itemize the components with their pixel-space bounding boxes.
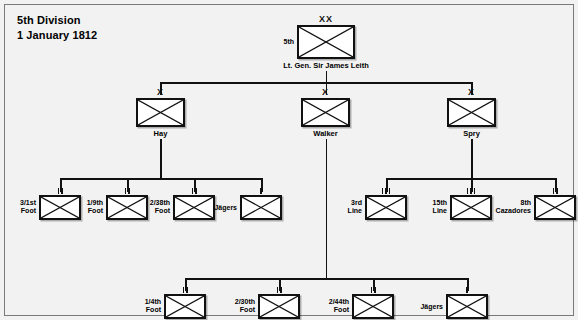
echelon-tick xyxy=(58,188,60,194)
infantry-cross-icon xyxy=(41,197,79,218)
connector-hay-to-2-38th xyxy=(194,178,196,192)
echelon-tick xyxy=(183,287,185,293)
unit-label-line-1: 8th xyxy=(496,199,531,208)
connector-hay-bus xyxy=(60,178,261,180)
unit-designation-label: 5th xyxy=(284,37,295,46)
connector-walker-to-jagers xyxy=(467,278,469,291)
unit-walker-jagers[interactable]: Jägers xyxy=(446,294,488,319)
unit-symbol-box xyxy=(106,195,148,220)
unit-symbol-box xyxy=(352,294,394,319)
unit-label-line-1: 2/44th xyxy=(329,298,349,307)
echelon-tick xyxy=(192,188,194,194)
infantry-cross-icon xyxy=(242,197,280,218)
connector-to-hay xyxy=(160,82,162,95)
unit-label-line-1: Jägers xyxy=(214,203,237,212)
unit-2-38th-foot[interactable]: 2/38th Foot xyxy=(173,195,215,220)
connector-to-spry xyxy=(471,82,473,95)
unit-symbol-box xyxy=(534,195,576,220)
unit-3-1st-foot[interactable]: 3/1st Foot xyxy=(39,195,81,220)
infantry-cross-icon xyxy=(175,197,213,218)
unit-label: 1/9th Foot xyxy=(87,199,103,217)
connector-hay-to-1-9th xyxy=(127,178,129,192)
unit-label-line-1: Jägers xyxy=(420,302,443,311)
infantry-cross-icon xyxy=(108,197,146,218)
connector-spry-to-8th-cazadores xyxy=(555,178,557,192)
connector-to-walker xyxy=(326,82,328,95)
brigade-name-label: Hay xyxy=(154,129,168,138)
connector-walker-to-1-4th xyxy=(185,278,187,291)
unit-label-line-2: Foot xyxy=(235,307,255,316)
division-commander-label: Lt. Gen. Sir James Leith xyxy=(283,61,368,70)
brigade-name-label: Walker xyxy=(313,129,337,138)
unit-label-line-2: Line xyxy=(433,208,447,217)
brigade-name-label: Spry xyxy=(463,129,480,138)
unit-symbol-box xyxy=(164,294,206,319)
unit-2-30th-foot[interactable]: 2/30th Foot xyxy=(258,294,300,319)
infantry-cross-icon xyxy=(536,197,574,218)
connector-walker-down xyxy=(326,139,328,279)
unit-1-4th-foot[interactable]: 1/4th Foot xyxy=(164,294,206,319)
unit-label-line-2: Foot xyxy=(150,208,170,217)
unit-label-line-1: 1/4th xyxy=(145,298,161,307)
unit-label: 3/1st Foot xyxy=(20,199,36,217)
unit-8th-cazadores[interactable]: 8th Cazadores xyxy=(534,195,576,220)
connector-brigade-bus xyxy=(160,82,472,84)
unit-label-line-1: 2/38th xyxy=(150,199,170,208)
unit-label-line-1: 3rd xyxy=(348,199,362,208)
chart-frame: 5th Division 1 January 1812 XX 5th Lt. G… xyxy=(4,4,574,316)
infantry-cross-icon xyxy=(166,296,204,317)
unit-label: 15th Line xyxy=(433,199,447,217)
unit-symbol-box xyxy=(365,195,407,220)
unit-label-line-2: Foot xyxy=(20,208,36,217)
unit-symbol-box xyxy=(450,195,492,220)
unit-label: 2/44th Foot xyxy=(329,298,349,316)
title-line-1: 5th Division xyxy=(17,13,97,28)
chart-title: 5th Division 1 January 1812 xyxy=(17,13,97,42)
echelon-tick xyxy=(474,188,476,194)
echelon-tick xyxy=(382,188,384,194)
infantry-cross-icon xyxy=(452,197,490,218)
infantry-cross-icon xyxy=(367,197,405,218)
title-line-2: 1 January 1812 xyxy=(17,28,97,43)
unit-label: Jägers xyxy=(214,203,237,212)
infantry-cross-icon xyxy=(260,296,298,317)
echelon-tick xyxy=(553,188,555,194)
unit-division-5th[interactable]: XX 5th Lt. Gen. Sir James Leith xyxy=(297,25,355,59)
connector-spry-down xyxy=(471,139,473,179)
unit-1-9th-foot[interactable]: 1/9th Foot xyxy=(106,195,148,220)
unit-symbol-box xyxy=(258,294,300,319)
unit-symbol-box xyxy=(136,98,185,127)
unit-15th-line[interactable]: 15th Line xyxy=(450,195,492,220)
unit-brigade-hay[interactable]: X Hay xyxy=(136,98,185,127)
infantry-cross-icon xyxy=(449,100,494,125)
echelon-tick xyxy=(277,287,279,293)
connector-walker-to-2-44th xyxy=(373,278,375,291)
unit-symbol-box xyxy=(447,98,496,127)
unit-symbol-box xyxy=(39,195,81,220)
unit-label: 2/38th Foot xyxy=(150,199,170,217)
unit-brigade-spry[interactable]: X Spry xyxy=(447,98,496,127)
echelon-tick xyxy=(125,188,127,194)
unit-label-line-2: Line xyxy=(348,208,362,217)
connector-spry-to-3rd-line xyxy=(386,178,388,192)
connector-walker-to-2-30th xyxy=(279,278,281,291)
connector-spry-to-15th-line xyxy=(471,178,473,192)
unit-2-44th-foot[interactable]: 2/44th Foot xyxy=(352,294,394,319)
unit-label: 3rd Line xyxy=(348,199,362,217)
infantry-cross-icon xyxy=(138,100,183,125)
unit-hay-jagers[interactable]: Jägers xyxy=(240,195,282,220)
unit-label: 8th Cazadores xyxy=(496,199,531,217)
infantry-cross-icon xyxy=(448,296,486,317)
unit-label-line-1: 1/9th xyxy=(87,199,103,208)
unit-brigade-walker[interactable]: X Walker xyxy=(301,98,350,127)
unit-symbol-box xyxy=(301,98,350,127)
connector-hay-to-3-1st xyxy=(60,178,62,192)
echelon-symbol: XX xyxy=(319,15,333,24)
unit-3rd-line[interactable]: 3rd Line xyxy=(365,195,407,220)
echelon-tick xyxy=(371,287,373,293)
unit-label: 2/30th Foot xyxy=(235,298,255,316)
infantry-cross-icon xyxy=(303,100,348,125)
echelon-tick xyxy=(389,188,391,194)
infantry-cross-icon xyxy=(354,296,392,317)
unit-label-line-1: 3/1st xyxy=(20,199,36,208)
